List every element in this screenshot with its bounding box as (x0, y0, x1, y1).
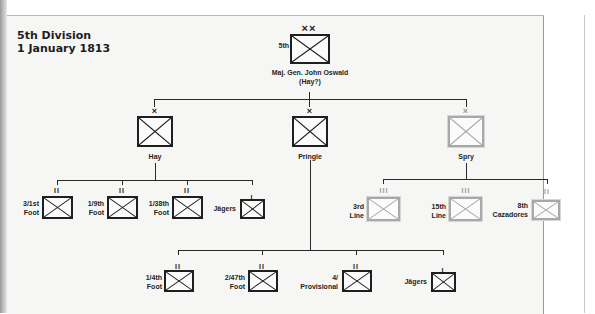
spry-u2-echelon: III (446, 186, 486, 195)
spry-u3-echelon: II (527, 187, 567, 196)
connector-hay-stem (155, 163, 156, 180)
hay-brigade-symbol-icon[interactable] (137, 116, 173, 147)
division-commander: Maj. Gen. John Oswald (Hay?) (250, 68, 370, 86)
hay-u1-symbol-icon[interactable] (42, 196, 73, 219)
diagram-title: 5th Division 1 January 1813 (17, 29, 110, 55)
hay-brigade-label: Hay (125, 152, 185, 161)
spry-u1-symbol-icon[interactable] (367, 197, 400, 221)
hay-u3-echelon: II (167, 186, 207, 195)
connector-spry-stem (466, 163, 467, 179)
connector-hay-u3 (187, 180, 188, 185)
spry-echelon-marker: × (446, 107, 486, 116)
division-echelon-marker: ×× (289, 23, 329, 34)
connector-spry-bar (383, 179, 548, 180)
connector-hay-u1 (57, 180, 58, 185)
hay-u1-label-line1: 3/1st (10, 199, 39, 208)
division-commander-name: Maj. Gen. John Oswald (250, 68, 370, 77)
connector-spry-u3 (547, 179, 548, 184)
title-date: 1 January 1813 (17, 42, 110, 55)
division-commander-note: (Hay?) (250, 77, 370, 86)
spry-u1-label-line2: Line (339, 211, 364, 220)
pringle-brigade-symbol-icon[interactable] (292, 116, 328, 147)
division-symbol-icon (290, 34, 330, 64)
spry-brigade-label: Spry (436, 152, 496, 161)
pringle-u1-label-line1: 1/4th (138, 273, 162, 282)
hay-u4-symbol-icon[interactable] (240, 199, 265, 219)
pringle-u2-symbol-icon[interactable] (248, 270, 278, 292)
hay-u3-label-line2: Foot (138, 208, 169, 217)
spry-u2-label: 15th Line (420, 202, 446, 220)
hay-echelon-marker: × (135, 107, 175, 116)
hay-u2-symbol-icon[interactable] (107, 196, 138, 219)
pringle-echelon-marker: × (290, 107, 330, 116)
right-gutter (544, 15, 595, 313)
hay-u1-label-line2: Foot (10, 208, 39, 217)
pringle-u3-label: 4/ Provisional (293, 273, 338, 291)
hay-u4-label-line1: Jägers (204, 204, 236, 213)
pringle-u2-label-line1: 2/47th (214, 273, 245, 282)
connector-brigade-bar (154, 99, 467, 100)
connector-pringle-u4 (443, 250, 444, 255)
spry-u2-label-line2: Line (420, 211, 446, 220)
hay-u2-label-line1: 1/9th (75, 199, 104, 208)
spry-u3-symbol-icon[interactable] (532, 200, 560, 220)
division-designation: 5th (271, 41, 289, 50)
hay-u4-label: Jägers (204, 204, 236, 213)
spry-u2-label-line1: 15th (420, 202, 446, 211)
hay-u3-symbol-icon[interactable] (172, 196, 203, 219)
pringle-u3-label-line1: 4/ (293, 273, 338, 282)
hay-u3-label: 1/38th Foot (138, 199, 169, 217)
pringle-u1-symbol-icon[interactable] (164, 270, 194, 292)
pringle-u4-label: Jägers (394, 277, 427, 286)
connector-hay-u2 (122, 180, 123, 185)
pringle-u2-label: 2/47th Foot (214, 273, 245, 291)
hay-u2-label-line2: Foot (75, 208, 104, 217)
spry-u3-label-line2: Cazadores (490, 210, 528, 219)
hay-u2-echelon: II (102, 186, 142, 195)
pringle-u2-label-line2: Foot (214, 282, 245, 291)
hay-u1-label: 3/1st Foot (10, 199, 39, 217)
connector-pringle-u2 (262, 250, 263, 255)
hay-u1-echelon: II (37, 186, 77, 195)
connector-pringle-stem (310, 160, 311, 250)
spry-u3-label: 8th Cazadores (490, 201, 528, 219)
connector-spry-u1 (383, 179, 384, 184)
hay-u3-label-line1: 1/38th (138, 199, 169, 208)
spry-u1-label: 3rd Line (339, 202, 364, 220)
connector-hay-bar (57, 180, 253, 181)
hay-u2-label: 1/9th Foot (75, 199, 104, 217)
pringle-u3-label-line2: Provisional (293, 282, 338, 291)
spry-u2-symbol-icon[interactable] (449, 197, 482, 221)
connector-hay-u4 (252, 180, 253, 185)
pringle-u4-label-line1: Jägers (394, 277, 427, 286)
pringle-u1-label-line2: Foot (138, 282, 162, 291)
spry-u3-label-line1: 8th (490, 201, 528, 210)
pringle-u4-symbol-icon[interactable] (431, 272, 456, 292)
connector-pringle-u1 (178, 250, 179, 255)
spry-u1-label-line1: 3rd (339, 202, 364, 211)
title-division: 5th Division (17, 29, 110, 42)
pringle-brigade-label: Pringle (280, 152, 340, 161)
pringle-u3-symbol-icon[interactable] (342, 270, 372, 292)
spry-brigade-symbol-icon[interactable] (448, 116, 484, 147)
pringle-u1-label: 1/4th Foot (138, 273, 162, 291)
connector-pringle-u3 (356, 250, 357, 255)
page-binding-edge (0, 0, 7, 313)
adjacent-page-edge (584, 15, 585, 313)
connector-pringle-bar (178, 250, 443, 251)
spry-u1-echelon: III (364, 186, 404, 195)
